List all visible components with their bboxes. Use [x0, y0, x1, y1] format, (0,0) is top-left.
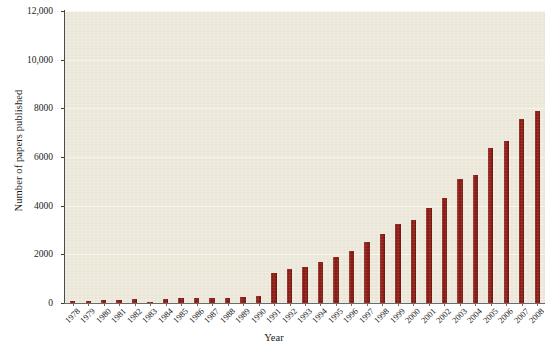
- x-tick-mark: [197, 303, 198, 306]
- x-tick-mark: [259, 303, 260, 306]
- x-axis-tick-labels: 1978197919801981198219831984198519861987…: [0, 0, 548, 351]
- x-axis-title: Year: [0, 332, 548, 343]
- x-tick-mark: [228, 303, 229, 306]
- chart-figure: Number of papers published 0200040006000…: [0, 0, 548, 351]
- x-tick-mark: [290, 303, 291, 306]
